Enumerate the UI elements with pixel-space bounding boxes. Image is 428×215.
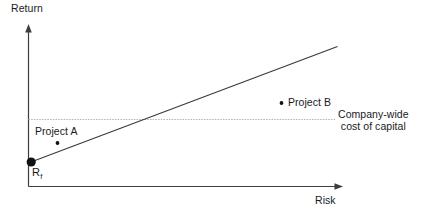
risk-return-chart: Return Risk Project A Project B Rf Compa… (0, 0, 428, 215)
project-a-label: Project A (35, 126, 77, 138)
x-axis-arrowhead-icon (335, 183, 344, 189)
risk-free-rate-label: Rf (32, 167, 42, 180)
cost-of-capital-label-line2: cost of capital (338, 121, 409, 133)
cost-of-capital-label: Company-wide cost of capital (338, 109, 409, 132)
cost-of-capital-label-line1: Company-wide (338, 109, 409, 121)
project-b-label: Project B (288, 97, 331, 109)
x-axis (29, 183, 344, 189)
y-axis-arrowhead-icon (25, 24, 32, 33)
project-b-marker (280, 101, 284, 105)
risk-free-rate-label-subscript: f (40, 172, 42, 181)
project-a-marker (56, 141, 60, 145)
risk-free-rate-label-main: R (32, 166, 40, 178)
y-axis-label: Return (11, 3, 43, 15)
x-axis-label: Risk (315, 195, 336, 207)
